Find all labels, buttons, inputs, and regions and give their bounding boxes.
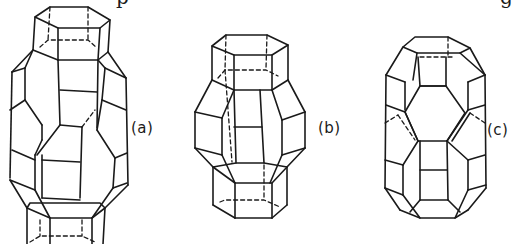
cage-diagram-b — [195, 35, 305, 218]
cage-diagram-a — [10, 7, 128, 244]
panel-label-b: (b) — [318, 119, 341, 137]
panel-label-c: (c) — [487, 121, 508, 139]
panel-label-a: (a) — [131, 119, 153, 137]
cropped-text-fragment: p — [116, 0, 129, 7]
figure-canvas: p g — [0, 0, 517, 244]
cropped-text-fragment: g — [500, 0, 513, 7]
cage-diagram-c — [385, 37, 486, 218]
